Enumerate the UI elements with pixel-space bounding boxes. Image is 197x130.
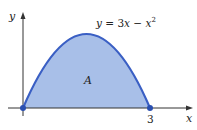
origin-point <box>20 105 26 111</box>
x-tick-label-3: 3 <box>147 113 154 125</box>
curve-equation-label: y = 3x − x2 <box>95 16 156 29</box>
y-axis <box>21 12 26 116</box>
area-under-parabola-figure: y = 3x − x2 A y x 3 <box>0 0 197 130</box>
y-axis-label: y <box>8 10 16 23</box>
x-axis-arrow-icon <box>186 106 193 111</box>
region-label: A <box>83 74 92 87</box>
root-point-3 <box>147 105 153 111</box>
x-axis-label: x <box>186 112 193 125</box>
y-axis-arrow-icon <box>21 12 26 19</box>
